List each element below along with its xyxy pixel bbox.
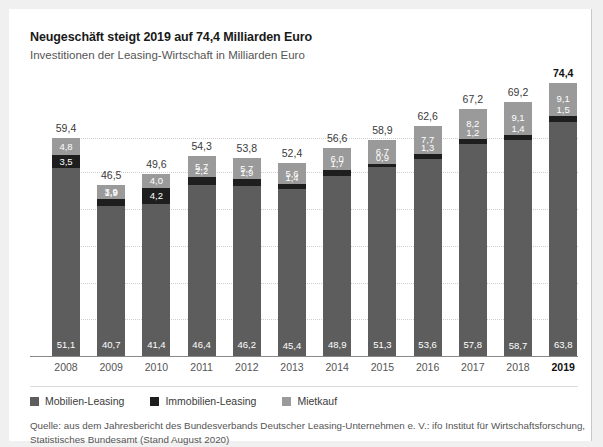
legend-item-label: Mietkauf [297,395,337,407]
legend-item[interactable]: Mobilien-Leasing [30,395,124,407]
x-axis-tick-2018: 2018 [504,361,532,373]
legend-item[interactable]: Mietkauf [282,395,337,407]
legend-swatch-mobilien [30,397,39,406]
bar-segment-label: 48,9 [328,340,347,350]
bar-segment-immobilien[interactable]: 2,2 [188,177,216,185]
bar-segment-label: 3,5 [59,157,72,167]
x-axis-tick-2012: 2012 [233,361,261,373]
bar-group[interactable]: 74,49,11,563,8 [549,83,577,356]
x-axis-tick-2016: 2016 [414,361,442,373]
x-axis: 2008200920102011201220132014201520162017… [30,361,578,377]
bar-segment-mietkauf[interactable]: 4,8 [52,138,80,156]
bar-segment-label: 4,0 [150,176,163,186]
x-axis-tick-2014: 2014 [323,361,351,373]
bar-group[interactable]: 56,66,01,748,9 [323,148,351,356]
x-axis-tick-2009: 2009 [97,361,125,373]
bar-segment-label: 40,7 [102,340,121,350]
bar-group[interactable]: 67,28,21,257,8 [459,109,487,356]
legend-divider [30,386,578,387]
bar-group[interactable]: 46,53,91,940,7 [97,185,125,356]
bar-segment-label: 1,7 [331,159,344,169]
bar-segment-immobilien[interactable]: 1,9 [97,199,125,206]
bar-segment-label: 41,4 [147,340,166,350]
bar-total-label: 67,2 [463,93,483,105]
bar-group[interactable]: 59,44,83,551,1 [52,138,80,356]
bar-segment-mobilien[interactable]: 57,8 [459,144,487,356]
bar-total-label: 58,9 [372,124,392,136]
bar-group[interactable]: 53,85,71,946,2 [233,158,261,356]
chart-legend: Mobilien-LeasingImmobilien-LeasingMietka… [30,395,337,407]
bar-total-label: 74,4 [553,67,573,79]
bar-segment-mobilien[interactable]: 46,4 [188,185,216,356]
bar-total-label: 46,5 [101,169,121,181]
chart-title: Neugeschäft steigt 2019 auf 74,4 Milliar… [30,30,570,44]
legend-item-label: Immobilien-Leasing [165,395,256,407]
bar-segment-label: 63,8 [554,340,573,350]
bar-segment-immobilien[interactable]: 3,5 [52,155,80,168]
bar-group[interactable]: 62,67,71,353,6 [414,126,442,356]
bar-segment-mobilien[interactable]: 46,2 [233,186,261,356]
bar-segment-mobilien[interactable]: 41,4 [142,204,170,356]
bar-series: 59,44,83,551,146,53,91,940,749,64,04,241… [30,63,578,356]
bar-segment-label: 4,8 [59,142,72,152]
chart-card: Neugeschäft steigt 2019 auf 74,4 Milliar… [9,9,592,441]
bar-group[interactable]: 58,96,70,951,3 [368,140,396,356]
source-note-line-1: Quelle: aus dem Jahresbericht des Bundes… [30,419,586,433]
legend-item[interactable]: Immobilien-Leasing [150,395,256,407]
bar-segment-mobilien[interactable]: 58,7 [504,140,532,356]
x-axis-tick-2015: 2015 [368,361,396,373]
bar-segment-immobilien[interactable]: 1,9 [233,179,261,186]
x-axis-tick-2010: 2010 [142,361,170,373]
bar-total-label: 59,4 [56,122,76,134]
bar-segment-immobilien[interactable]: 4,2 [142,188,170,203]
legend-item-label: Mobilien-Leasing [45,395,124,407]
bar-segment-label: 1,3 [421,143,434,153]
bar-group[interactable]: 54,35,72,246,4 [188,156,216,356]
bar-group[interactable]: 52,45,61,445,4 [278,163,306,356]
bar-segment-mobilien[interactable]: 45,4 [278,189,306,356]
bar-total-label: 69,2 [508,86,528,98]
chart-header: Neugeschäft steigt 2019 auf 74,4 Milliar… [30,30,570,61]
axis-baseline [30,356,578,357]
bar-segment-mobilien[interactable]: 51,1 [52,168,80,356]
bar-segment-label: 53,6 [418,340,437,350]
x-axis-tick-2008: 2008 [52,361,80,373]
bar-segment-label: 1,9 [240,168,253,178]
bar-group[interactable]: 69,29,11,458,7 [504,102,532,356]
plot-area: 59,44,83,551,146,53,91,940,749,64,04,241… [30,63,578,357]
bar-segment-label: 2,2 [195,166,208,176]
bar-segment-label: 51,1 [57,340,76,350]
bar-segment-label: 46,4 [192,340,211,350]
bar-total-label: 53,8 [237,142,257,154]
x-axis-tick-2011: 2011 [188,361,216,373]
bar-total-label: 52,4 [282,147,302,159]
bar-segment-label: 45,4 [283,341,302,351]
bar-total-label: 62,6 [417,110,437,122]
bar-segment-label: 0,9 [376,153,389,163]
bar-segment-mietkauf[interactable]: 4,0 [142,174,170,189]
x-axis-tick-2019: 2019 [549,361,577,373]
bar-segment-label: 1,4 [285,173,298,183]
source-note-line-2: Statistisches Bundesamt (Stand August 20… [30,433,586,447]
bar-segment-label: 46,2 [238,340,257,350]
bar-segment-mobilien[interactable]: 40,7 [97,206,125,356]
bar-group[interactable]: 49,64,04,241,4 [142,174,170,356]
bar-segment-label: 51,3 [373,340,392,350]
x-axis-tick-2017: 2017 [459,361,487,373]
bar-segment-mobilien[interactable]: 53,6 [414,159,442,356]
bar-segment-mobilien[interactable]: 63,8 [549,122,577,356]
bar-total-label: 56,6 [327,132,347,144]
bar-segment-label: 57,8 [464,340,483,350]
bar-segment-label: 1,9 [105,188,118,198]
chart-subtitle: Investitionen der Leasing-Wirtschaft in … [30,49,570,61]
bar-segment-label: 1,4 [511,124,524,134]
legend-swatch-mietkauf [282,397,291,406]
x-axis-tick-2013: 2013 [278,361,306,373]
bar-segment-label: 4,2 [150,191,163,201]
bar-total-label: 54,3 [191,140,211,152]
bar-segment-mobilien[interactable]: 48,9 [323,176,351,356]
bar-segment-label: 1,5 [557,105,570,115]
bar-segment-mobilien[interactable]: 51,3 [368,167,396,356]
legend-swatch-immobilien [150,397,159,406]
source-note: Quelle: aus dem Jahresbericht des Bundes… [30,419,586,447]
